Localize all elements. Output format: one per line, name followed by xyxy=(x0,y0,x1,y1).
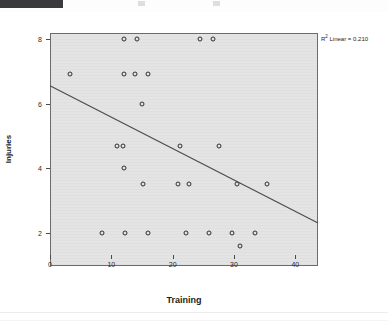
data-point xyxy=(235,182,240,187)
x-axis-tick-label: 10 xyxy=(101,261,121,268)
toolbar-mark-1 xyxy=(138,1,145,6)
title-bar-block xyxy=(0,0,63,8)
x-axis-tick xyxy=(173,255,174,259)
data-point xyxy=(146,72,151,77)
y-axis-tick-label: 2 xyxy=(26,229,42,236)
chart-figure: Injuries Training R2 Linear = 0.210 2468… xyxy=(0,12,388,312)
y-axis-tick xyxy=(46,39,50,40)
data-point xyxy=(207,230,212,235)
data-point xyxy=(121,166,126,171)
x-axis-title: Training xyxy=(166,295,201,305)
data-point xyxy=(114,143,119,148)
data-point xyxy=(139,101,144,106)
data-point xyxy=(184,230,189,235)
y-axis-tick xyxy=(46,233,50,234)
data-point xyxy=(175,182,180,187)
x-axis-tick-label: 30 xyxy=(224,261,244,268)
y-axis-tick-label: 8 xyxy=(26,35,42,42)
y-axis-tick xyxy=(46,104,50,105)
data-point xyxy=(230,230,235,235)
data-point xyxy=(211,36,216,41)
r2-value-text: Linear = 0.210 xyxy=(328,36,368,42)
footer-divider-2 xyxy=(0,320,388,321)
y-axis-tick-label: 6 xyxy=(26,100,42,107)
toolbar-mark-2 xyxy=(213,1,220,6)
data-point xyxy=(135,36,140,41)
x-axis-tick-label: 40 xyxy=(285,261,305,268)
r-squared-annotation: R2 Linear = 0.210 xyxy=(321,34,368,42)
data-point xyxy=(68,72,73,77)
footer-divider-1 xyxy=(0,312,388,313)
window-top-strip xyxy=(0,0,388,12)
y-axis-title: Injuries xyxy=(4,135,13,163)
data-point xyxy=(198,36,203,41)
data-point xyxy=(120,143,125,148)
data-point xyxy=(146,230,151,235)
data-point xyxy=(100,230,105,235)
x-axis-tick xyxy=(50,255,51,259)
x-axis-tick-label: 0 xyxy=(40,261,60,268)
y-axis-tick-label: 4 xyxy=(26,165,42,172)
data-point xyxy=(265,182,270,187)
x-axis-tick xyxy=(111,255,112,259)
data-point xyxy=(122,72,127,77)
x-axis-tick xyxy=(234,255,235,259)
data-point xyxy=(178,143,183,148)
data-point xyxy=(253,230,258,235)
y-axis-tick xyxy=(46,168,50,169)
data-point xyxy=(187,182,192,187)
data-point xyxy=(121,36,126,41)
data-point xyxy=(217,143,222,148)
x-axis-tick xyxy=(295,255,296,259)
data-point xyxy=(122,230,127,235)
data-point xyxy=(140,182,145,187)
x-axis-tick-label: 20 xyxy=(163,261,183,268)
data-point xyxy=(238,243,243,248)
data-point xyxy=(133,72,138,77)
